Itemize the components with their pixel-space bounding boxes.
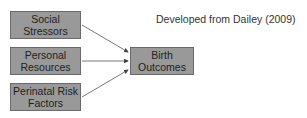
- arrow-perinatal-to-birth: [82, 70, 128, 97]
- arrows-layer: [0, 0, 307, 118]
- arrow-social-to-birth: [82, 25, 128, 52]
